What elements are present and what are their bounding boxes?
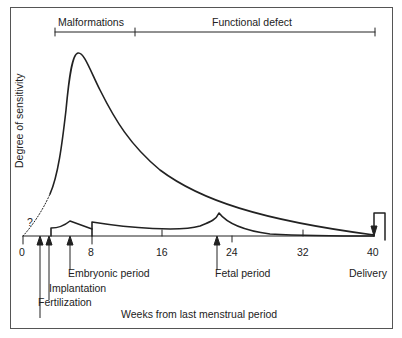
tick-label-16: 16 (156, 247, 168, 258)
malformations-label: Malformations (58, 17, 124, 28)
y-axis-label: Degree of sensitivity (14, 73, 25, 168)
functional-defect-label: Functional defect (212, 17, 292, 28)
lower-curve-embryonic (51, 221, 92, 236)
upper-curve-dotted (23, 194, 50, 236)
fetal-period-label: Fetal period (215, 268, 270, 279)
tick-label-40: 40 (367, 247, 379, 258)
tick-label-32: 32 (297, 247, 309, 258)
embryonic-period-label: Embryonic period (68, 268, 150, 279)
fertilization-label: Fertilization (38, 297, 92, 308)
tick-label-24: 24 (226, 247, 238, 258)
tick-label-8: 8 (88, 247, 94, 258)
implantation-label: Implantation (49, 283, 106, 294)
lower-curve-fetal (92, 213, 374, 236)
x-axis-label: Weeks from last menstrual period (121, 309, 277, 320)
delivery-label: Delivery (349, 268, 387, 279)
upper-sensitivity-curve (50, 53, 374, 235)
tick-label-0: 0 (19, 247, 25, 258)
question-mark: ? (27, 217, 33, 228)
